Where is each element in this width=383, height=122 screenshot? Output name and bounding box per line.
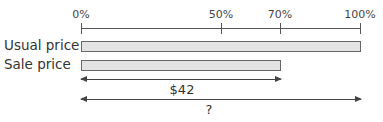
- tick-label-50: 50%: [209, 8, 233, 21]
- tick-label-0: 0%: [72, 8, 89, 21]
- tick-50: [221, 23, 222, 34]
- tick-100: [360, 23, 361, 34]
- sale-price-bar: [81, 60, 281, 71]
- tick-label-70: 70%: [268, 8, 292, 21]
- tick-70: [280, 23, 281, 34]
- sale-price-span-arrow: [81, 79, 281, 80]
- arrowhead-right-icon: [275, 76, 282, 82]
- usual-price-bar: [81, 41, 361, 52]
- tick-0: [81, 23, 82, 34]
- arrowhead-left-icon: [80, 96, 87, 102]
- arrowhead-left-icon: [80, 76, 87, 82]
- sale-price-amount: $42: [170, 82, 195, 97]
- unknown-usual-price: ?: [206, 102, 213, 117]
- tick-label-100: 100%: [344, 8, 375, 21]
- arrowhead-right-icon: [355, 96, 362, 102]
- sale-price-label: Sale price: [4, 56, 71, 72]
- usual-price-span-arrow: [81, 99, 361, 100]
- usual-price-label: Usual price: [4, 37, 79, 53]
